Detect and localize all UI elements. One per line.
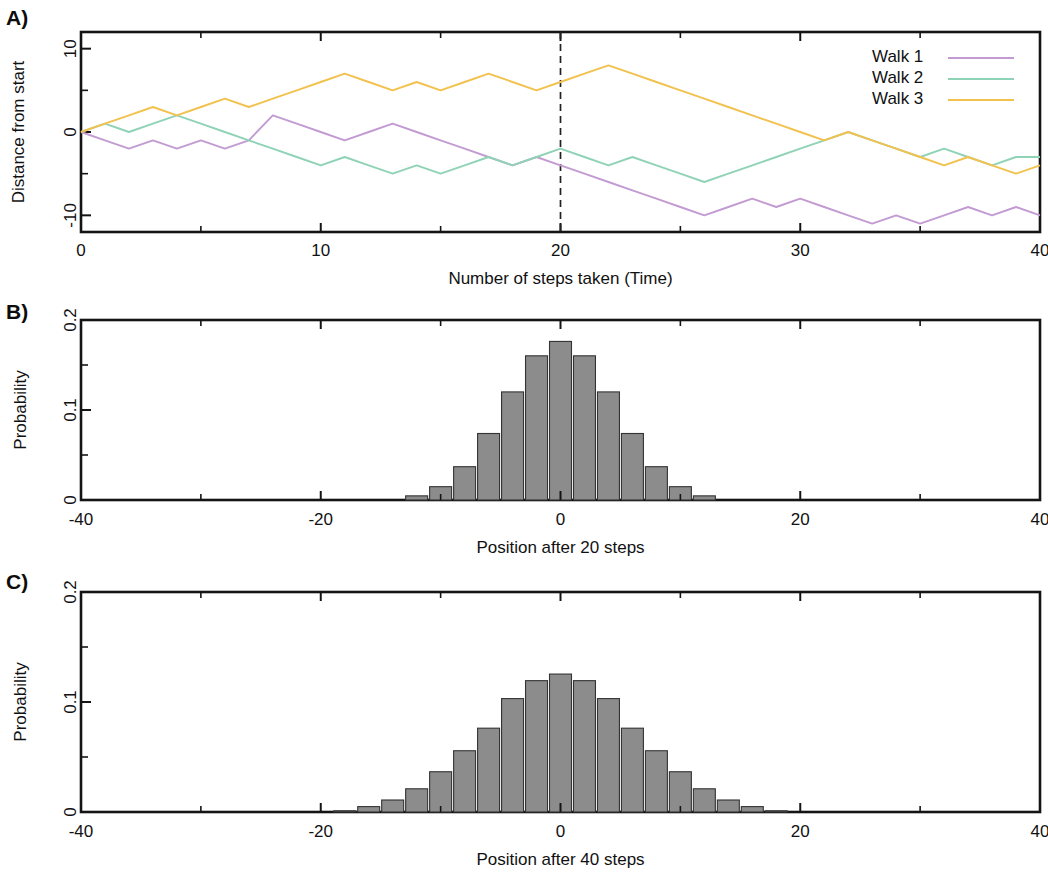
x-tick-label: 0 xyxy=(76,241,85,260)
histogram-bar xyxy=(502,392,524,500)
y-tick-label: 0.1 xyxy=(61,690,80,714)
histogram-bar xyxy=(406,789,428,812)
y-tick-label: 0 xyxy=(61,127,80,136)
x-tick-label: 30 xyxy=(791,241,810,260)
histogram-bar xyxy=(765,811,787,812)
panel-c-plot: -40-200204000.10.2ProbabilityPosition af… xyxy=(0,562,1048,877)
x-tick-label: -40 xyxy=(69,510,94,529)
histogram-bar xyxy=(597,699,619,812)
x-tick-label: 10 xyxy=(311,241,330,260)
histogram-bar xyxy=(334,811,356,812)
histogram-bar xyxy=(645,467,667,500)
panel-b-ylabel: Probability xyxy=(11,370,30,450)
histogram-bar xyxy=(573,356,595,500)
histogram-bar xyxy=(621,728,643,812)
x-tick-label: 0 xyxy=(556,510,565,529)
panel-c-xlabel: Position after 40 steps xyxy=(476,850,644,869)
panel-a-xlabel: Number of steps taken (Time) xyxy=(448,269,672,288)
x-tick-label: 40 xyxy=(1031,510,1048,529)
histogram-bar xyxy=(430,772,452,812)
panel-b-letter: B) xyxy=(6,300,28,324)
x-tick-label: 0 xyxy=(556,822,565,841)
histogram-bar xyxy=(550,674,572,812)
legend-label-3: Walk 3 xyxy=(872,89,923,108)
histogram-bar xyxy=(382,800,404,812)
histogram-bar xyxy=(358,807,380,812)
panel-a-ylabel: Distance from start xyxy=(9,60,28,203)
histogram-bar xyxy=(478,433,500,500)
x-tick-label: 20 xyxy=(791,510,810,529)
histogram-bar xyxy=(717,800,739,812)
x-tick-label: 20 xyxy=(791,822,810,841)
panel-c-ylabel: Probability xyxy=(11,662,30,742)
x-tick-label: -40 xyxy=(69,822,94,841)
panel-c: C) -40-200204000.10.2ProbabilityPosition… xyxy=(0,562,1048,877)
legend-label-2: Walk 2 xyxy=(872,68,923,87)
legend-label-1: Walk 1 xyxy=(872,47,923,66)
histogram-bar xyxy=(502,699,524,812)
x-tick-label: 40 xyxy=(1031,822,1048,841)
x-tick-label: -20 xyxy=(308,510,333,529)
panel-b: B) -40-200204000.10.2ProbabilityPosition… xyxy=(0,292,1048,570)
histogram-bar xyxy=(693,496,715,500)
x-tick-label: 20 xyxy=(551,241,570,260)
y-tick-label: 10 xyxy=(61,39,80,58)
histogram-bar xyxy=(526,356,548,500)
panel-b-plot: -40-200204000.10.2ProbabilityPosition af… xyxy=(0,292,1048,570)
histogram-bar xyxy=(526,681,548,812)
random-walk-figure: A) 010203040-10010Distance from startNum… xyxy=(0,0,1048,877)
y-tick-label: -10 xyxy=(61,203,80,228)
histogram-bar xyxy=(478,728,500,812)
panel-a: A) 010203040-10010Distance from startNum… xyxy=(0,0,1048,292)
histogram-bar xyxy=(741,807,763,812)
panel-a-letter: A) xyxy=(6,6,28,30)
y-tick-label: 0.2 xyxy=(61,580,80,604)
y-tick-label: 0 xyxy=(61,495,80,504)
panel-c-letter: C) xyxy=(6,570,28,594)
histogram-bar xyxy=(406,496,428,500)
y-tick-label: 0.1 xyxy=(61,398,80,422)
histogram-bar xyxy=(645,751,667,812)
histogram-bar xyxy=(573,681,595,812)
x-tick-label: -20 xyxy=(308,822,333,841)
panel-a-plot: 010203040-10010Distance from startNumber… xyxy=(0,0,1048,292)
histogram-bar xyxy=(454,467,476,500)
histogram-bar xyxy=(550,341,572,500)
y-tick-label: 0.2 xyxy=(61,308,80,332)
histogram-bar xyxy=(454,751,476,812)
panel-b-xlabel: Position after 20 steps xyxy=(476,538,644,557)
y-tick-label: 0 xyxy=(61,807,80,816)
histogram-bar xyxy=(597,392,619,500)
histogram-bar xyxy=(621,433,643,500)
histogram-bar xyxy=(669,772,691,812)
histogram-bar xyxy=(693,789,715,812)
x-tick-label: 40 xyxy=(1031,241,1048,260)
